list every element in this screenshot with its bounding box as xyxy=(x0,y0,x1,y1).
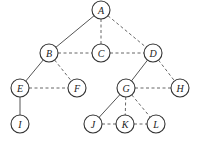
node-g: G xyxy=(117,79,135,97)
node-label: A xyxy=(97,5,105,16)
node-e: E xyxy=(11,79,29,97)
edge-b-f xyxy=(55,60,72,81)
node-label: C xyxy=(98,48,105,59)
node-b: B xyxy=(40,44,58,62)
edge-a-b xyxy=(56,16,94,48)
node-label: G xyxy=(122,83,129,94)
node-a: A xyxy=(92,1,110,19)
node-label: F xyxy=(73,83,81,94)
node-label: J xyxy=(91,119,96,130)
node-label: B xyxy=(46,48,52,59)
node-label: D xyxy=(148,48,157,59)
edge-g-j xyxy=(99,95,120,118)
node-l: L xyxy=(147,115,165,133)
edge-g-l xyxy=(132,95,150,117)
edge-b-e xyxy=(26,60,44,81)
node-label: H xyxy=(175,83,184,94)
node-label: E xyxy=(16,83,23,94)
node-i: I xyxy=(11,115,29,133)
edge-d-g xyxy=(131,60,147,81)
node-d: D xyxy=(144,44,162,62)
edge-d-h xyxy=(158,60,174,81)
edge-g-k xyxy=(125,97,126,115)
node-h: H xyxy=(171,79,189,97)
node-f: F xyxy=(68,79,86,97)
node-label: K xyxy=(121,119,130,130)
node-j: J xyxy=(84,115,102,133)
node-c: C xyxy=(92,44,110,62)
node-label: I xyxy=(17,119,22,130)
edges-layer xyxy=(20,16,175,124)
edge-a-d xyxy=(108,16,146,48)
tree-diagram: ABCDEFGHIJKL xyxy=(0,0,200,148)
node-label: L xyxy=(152,119,159,130)
node-k: K xyxy=(116,115,134,133)
